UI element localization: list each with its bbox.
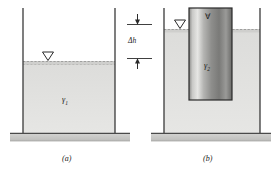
figure-two-tanks: γ1 ∀ γ2 Δh (a) (b) [0,0,280,172]
caption-panel-a: (a) [62,155,71,163]
arrow-up-icon [135,58,140,63]
caption-panel-b: (b) [203,155,212,163]
label-gamma-1-panel-a: γ1 [62,96,68,106]
free-surface-triangle-a [43,52,54,61]
panel-b [151,8,271,141]
label-volume-block-b: ∀ [205,13,210,21]
gamma-subscript-a: 1 [65,100,68,106]
arrow-down-icon [135,20,140,25]
label-delta-h: Δh [128,37,136,45]
ground-slab-b [151,133,271,141]
solid-block-b [189,8,232,100]
figure-canvas [0,0,280,172]
fluid-body-a [23,61,115,133]
ground-slab-a [10,133,130,141]
label-gamma-2-panel-b: γ2 [204,62,210,72]
gamma-subscript-b: 2 [207,66,210,72]
free-surface-triangle-b [175,20,186,29]
volume-symbol: ∀ [205,12,210,21]
panel-a [10,8,130,141]
